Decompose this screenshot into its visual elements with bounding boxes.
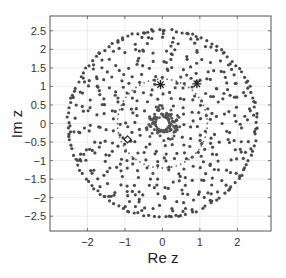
scatter-point bbox=[139, 134, 142, 137]
scatter-point bbox=[172, 180, 175, 183]
scatter-point bbox=[133, 184, 136, 187]
circle-point bbox=[125, 149, 127, 151]
scatter-point bbox=[84, 159, 87, 162]
scatter-point bbox=[181, 136, 184, 139]
rim-point bbox=[170, 215, 173, 218]
scatter-point bbox=[235, 157, 238, 160]
scatter-point bbox=[114, 64, 117, 67]
rim-point bbox=[151, 30, 154, 33]
rim-point bbox=[74, 87, 77, 90]
scatter-point bbox=[150, 93, 153, 96]
rim-point bbox=[95, 55, 98, 58]
ring-point bbox=[162, 139, 165, 142]
circle-point bbox=[157, 167, 159, 169]
scatter-point bbox=[172, 36, 175, 39]
circle-point bbox=[180, 82, 182, 84]
scatter-point bbox=[177, 42, 180, 45]
scatter-point bbox=[116, 145, 119, 148]
scatter-point bbox=[244, 94, 247, 97]
scatter-point bbox=[131, 162, 134, 165]
y-tick-label: 2 bbox=[40, 43, 46, 55]
scatter-point bbox=[145, 166, 148, 169]
scatter-point bbox=[213, 133, 216, 136]
scatter-point bbox=[220, 122, 223, 125]
scatter-point bbox=[118, 133, 121, 136]
circle-point bbox=[161, 78, 163, 80]
scatter-point bbox=[170, 97, 173, 100]
circle-point bbox=[192, 156, 194, 158]
scatter-point bbox=[185, 157, 188, 160]
scatter-point bbox=[215, 115, 218, 118]
rim-point bbox=[136, 32, 139, 35]
scatter-point bbox=[77, 130, 80, 133]
scatter-point bbox=[173, 48, 176, 51]
circle-point bbox=[206, 127, 208, 129]
scatter-point bbox=[120, 158, 123, 161]
rim-point bbox=[99, 193, 102, 196]
scatter-point bbox=[199, 117, 202, 120]
scatter-point bbox=[175, 152, 178, 155]
rim-point bbox=[191, 210, 194, 213]
scatter-point bbox=[189, 77, 192, 80]
circle-point bbox=[206, 118, 208, 120]
scatter-point bbox=[215, 153, 218, 156]
scatter-point bbox=[95, 113, 98, 116]
scatter-point bbox=[161, 36, 164, 39]
scatter-point bbox=[228, 94, 231, 97]
scatter-point bbox=[163, 186, 166, 189]
rim-point bbox=[67, 126, 70, 129]
rim-point bbox=[255, 115, 258, 118]
y-tick-label: 1 bbox=[40, 80, 46, 92]
scatter-point bbox=[223, 112, 226, 115]
scatter-point bbox=[226, 88, 229, 91]
scatter-point bbox=[141, 193, 144, 196]
scatter-point bbox=[192, 119, 195, 122]
scatter-point bbox=[98, 185, 101, 188]
scatter-point bbox=[211, 153, 214, 156]
rim-point bbox=[231, 60, 234, 63]
scatter-point bbox=[151, 51, 154, 54]
scatter-point bbox=[178, 179, 181, 182]
scatter-point bbox=[195, 62, 198, 65]
scatter-point bbox=[228, 141, 231, 144]
rim-point bbox=[238, 177, 241, 180]
x-tick-label: −1 bbox=[119, 236, 132, 248]
scatter-point bbox=[135, 99, 138, 102]
scatter-point bbox=[163, 197, 166, 200]
scatter-point bbox=[88, 148, 91, 151]
ring-point bbox=[152, 120, 155, 123]
scatter-point bbox=[138, 128, 141, 131]
ring-point bbox=[168, 125, 171, 128]
scatter-point bbox=[197, 193, 200, 196]
rim-point bbox=[77, 80, 80, 83]
scatter-point bbox=[135, 107, 138, 110]
scatter-point bbox=[105, 128, 108, 131]
ring-point bbox=[166, 114, 169, 117]
scatter-point bbox=[192, 165, 195, 168]
rim-point bbox=[75, 158, 78, 161]
rim-point bbox=[238, 67, 241, 70]
scatter-point bbox=[134, 43, 137, 46]
rim-point bbox=[181, 31, 184, 34]
circle-point bbox=[180, 163, 182, 165]
scatter-point bbox=[209, 95, 212, 98]
scatter-point bbox=[114, 110, 117, 113]
scatter-point bbox=[193, 95, 196, 98]
scatter-point bbox=[220, 179, 223, 182]
scatter-point bbox=[155, 183, 158, 186]
circle-point bbox=[205, 113, 207, 115]
scatter-point bbox=[125, 92, 128, 95]
scatter-point bbox=[212, 69, 215, 72]
scatter-point bbox=[140, 36, 143, 39]
ring-point bbox=[170, 123, 173, 126]
circle-point bbox=[128, 93, 130, 95]
scatter-point bbox=[170, 66, 173, 69]
scatter-point bbox=[191, 98, 194, 101]
ring-point bbox=[175, 128, 178, 131]
scatter-point bbox=[111, 109, 114, 112]
circle-point bbox=[139, 161, 141, 163]
rim-point bbox=[142, 31, 145, 34]
circle-point bbox=[131, 156, 133, 158]
circle-point bbox=[123, 145, 125, 147]
circle-point bbox=[184, 161, 186, 163]
